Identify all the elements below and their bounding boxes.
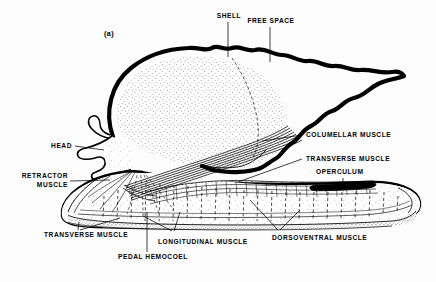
label-pedal-hemocoel: PEDAL HEMOCOEL bbox=[118, 253, 188, 262]
label-head: HEAD bbox=[30, 142, 72, 151]
label-retractor-muscle-line2: MUSCLE bbox=[37, 181, 68, 188]
label-dorsoventral-muscle: DORSOVENTRAL MUSCLE bbox=[272, 234, 367, 243]
anatomical-figure: (a) SHELL FREE SPACE COLUMELLAR MUSCLE T… bbox=[0, 0, 436, 282]
label-transverse-muscle-bottom: TRANSVERSE MUSCLE bbox=[44, 231, 128, 240]
label-free-space: FREE SPACE bbox=[240, 17, 302, 26]
label-longitudinal-muscle: LONGITUDINAL MUSCLE bbox=[158, 238, 248, 247]
label-retractor-muscle: RETRACTOR MUSCLE bbox=[8, 172, 68, 189]
label-operculum: OPERCULUM bbox=[316, 168, 363, 177]
label-columellar-muscle: COLUMELLAR MUSCLE bbox=[306, 131, 391, 140]
label-retractor-muscle-line1: RETRACTOR bbox=[22, 172, 68, 179]
label-transverse-muscle-right: TRANSVERSE MUSCLE bbox=[306, 155, 390, 164]
panel-label: (a) bbox=[104, 29, 114, 38]
